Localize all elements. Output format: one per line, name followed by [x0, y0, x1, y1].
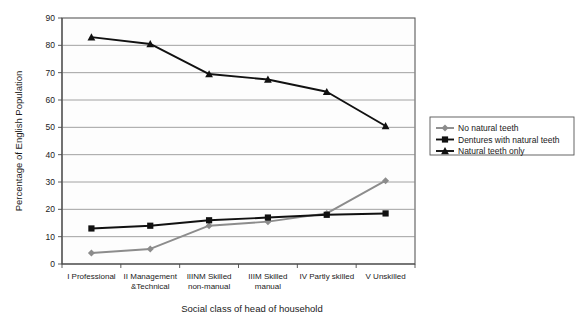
data-point-marker	[265, 214, 271, 220]
x-category-label: &Technical	[131, 282, 170, 291]
y-tick-label: 70	[46, 68, 56, 78]
x-axis-ticks	[62, 264, 415, 268]
x-category-label: V Unskilled	[366, 272, 406, 281]
y-axis-title: Percentage of English Population	[13, 71, 24, 212]
chart-container: 0102030405060708090 I ProfessionalII Man…	[0, 0, 582, 320]
data-point-marker	[382, 210, 388, 216]
legend: No natural teethDentures with natural te…	[430, 117, 574, 156]
y-tick-label: 80	[46, 40, 56, 50]
y-axis-ticks	[58, 18, 62, 264]
line-chart: 0102030405060708090 I ProfessionalII Man…	[0, 0, 582, 320]
legend-item-label: No natural teeth	[458, 123, 519, 133]
legend-item-label: Natural teeth only	[458, 146, 525, 156]
y-tick-label: 90	[46, 13, 56, 23]
x-axis-category-labels: I ProfessionalII Management&TechnicalIII…	[67, 272, 405, 291]
y-tick-label: 0	[50, 259, 55, 269]
y-tick-label: 30	[46, 177, 56, 187]
data-point-marker	[206, 217, 212, 223]
x-category-label: IV Partly skilled	[299, 272, 354, 281]
data-point-marker	[147, 223, 153, 229]
y-tick-label: 10	[46, 232, 56, 242]
x-category-label: IIIM Skilled	[248, 272, 287, 281]
x-category-label: II Management	[124, 272, 178, 281]
x-category-label: I Professional	[67, 272, 116, 281]
data-point-marker	[88, 225, 94, 231]
y-axis-tick-labels: 0102030405060708090	[46, 13, 56, 269]
data-point-marker	[442, 136, 448, 142]
x-category-label: manual	[255, 282, 281, 291]
y-tick-label: 20	[46, 204, 56, 214]
x-category-label: non-manual	[188, 282, 230, 291]
y-tick-label: 40	[46, 150, 56, 160]
y-tick-label: 60	[46, 95, 56, 105]
legend-item-label: Dentures with natural teeth	[458, 135, 560, 145]
x-axis-title: Social class of head of household	[181, 303, 323, 314]
x-category-label: IIINM Skilled	[187, 272, 232, 281]
data-point-marker	[324, 212, 330, 218]
y-tick-label: 50	[46, 122, 56, 132]
